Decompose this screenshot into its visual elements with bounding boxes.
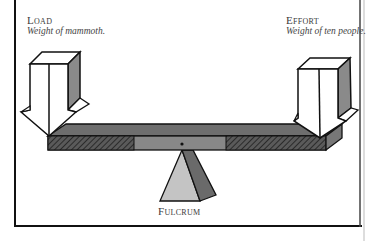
fulcrum-title: Fulcrum (158, 205, 200, 217)
effort-label: Effort Weight of ten people. (286, 14, 366, 37)
fulcrum-label: Fulcrum (158, 205, 200, 217)
effort-arrow (294, 58, 358, 138)
lever-beam (48, 124, 342, 150)
effort-caption: Weight of ten people. (286, 26, 366, 37)
load-title: Load (27, 14, 105, 26)
load-label: Load Weight of mammoth. (27, 14, 105, 37)
effort-title: Effort (286, 14, 366, 26)
load-caption: Weight of mammoth. (27, 26, 105, 37)
fulcrum-shape (160, 150, 216, 201)
